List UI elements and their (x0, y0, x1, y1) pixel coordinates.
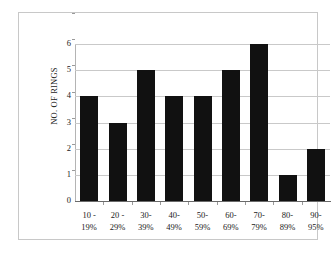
bar (80, 96, 98, 201)
x-axis-tick-mark (103, 202, 104, 205)
x-axis-line (75, 201, 331, 202)
y-axis-tick-mark (72, 170, 75, 171)
y-axis-tick-mark (72, 13, 75, 14)
bar (194, 96, 212, 201)
figure: NO. OF RINGS 6543210 10 -19%20 -29%30-39… (0, 0, 335, 255)
y-axis-tick-label: 2 (55, 144, 71, 153)
bar (307, 149, 325, 201)
x-axis-tick-mark (132, 202, 133, 205)
y-axis-tick-mark (72, 92, 75, 93)
bar (250, 44, 268, 201)
chart-frame: NO. OF RINGS 6543210 10 -19%20 -29%30-39… (18, 12, 318, 240)
y-axis-tick-label: 4 (55, 91, 71, 100)
x-axis-tick-mark (302, 202, 303, 205)
gridline (75, 70, 330, 71)
plot-area (75, 44, 330, 201)
y-axis-tick-mark (72, 65, 75, 66)
bar (222, 70, 240, 201)
y-axis-tick-label: 1 (55, 170, 71, 179)
y-axis-tick-label: 0 (55, 196, 71, 205)
y-axis-tick-label: 5 (55, 65, 71, 74)
x-axis-tick-label: 90-95% (299, 209, 333, 233)
x-axis-tick-mark (188, 202, 189, 205)
y-axis-tick-mark (72, 118, 75, 119)
x-axis-tick-mark (160, 202, 161, 205)
y-axis-tick-label: 6 (55, 39, 71, 48)
bar (137, 70, 155, 201)
bar (109, 123, 127, 202)
y-axis-tick-mark (72, 39, 75, 40)
gridline (75, 44, 330, 45)
bar (279, 175, 297, 201)
y-axis-tick-labels: 6543210 (55, 44, 71, 201)
y-axis-tick-label: 3 (55, 118, 71, 127)
x-axis-tick-mark (273, 202, 274, 205)
bar (165, 96, 183, 201)
y-axis-tick-mark (72, 144, 75, 145)
x-axis-tick-mark (245, 202, 246, 205)
x-axis-tick-mark (217, 202, 218, 205)
